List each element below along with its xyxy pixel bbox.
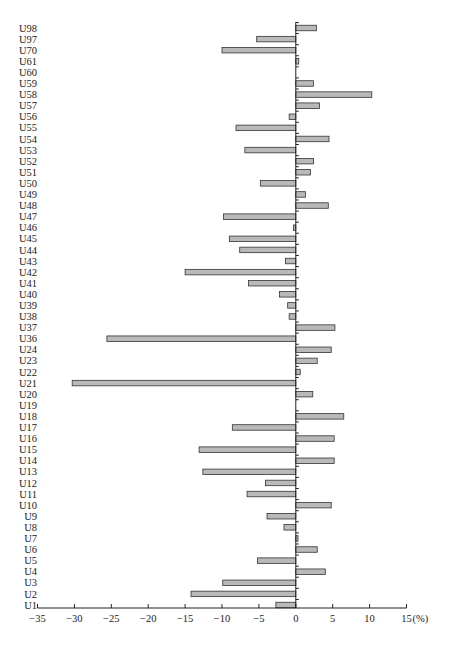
- bar-U15: [199, 447, 296, 453]
- category-label: U13: [19, 466, 37, 477]
- bar-U48: [296, 203, 328, 209]
- bar-U14: [296, 458, 334, 464]
- x-ticks: −35−30−25−20−15−10−5051015: [29, 604, 411, 624]
- category-label: U53: [19, 145, 37, 156]
- bar-U9: [267, 513, 296, 519]
- bar-U49: [296, 192, 306, 198]
- x-tick-label: 0: [293, 613, 298, 624]
- bar-U6: [296, 547, 317, 553]
- bar-U97: [257, 36, 296, 42]
- category-label: U54: [19, 134, 38, 145]
- category-label: U24: [19, 344, 38, 355]
- category-label: U36: [19, 333, 37, 344]
- bar-U17: [232, 425, 295, 431]
- category-label: U38: [19, 311, 37, 322]
- bar-U43: [285, 258, 295, 264]
- bar-U13: [203, 469, 296, 475]
- category-label: U1: [24, 600, 37, 611]
- bar-U51: [296, 170, 311, 176]
- bar-U37: [296, 325, 335, 331]
- x-tick-label: −25: [103, 613, 119, 624]
- category-label: U41: [19, 278, 37, 289]
- category-label: U46: [19, 222, 37, 233]
- x-tick-label: 10: [364, 613, 375, 624]
- category-label: U19: [19, 400, 37, 411]
- bar-U53: [245, 147, 296, 153]
- bar-U11: [247, 491, 296, 497]
- bar-U36: [107, 336, 296, 342]
- bar-U70: [222, 47, 296, 53]
- x-tick-label: −5: [253, 613, 264, 624]
- category-label: U48: [19, 200, 37, 211]
- bar-U2: [191, 591, 296, 597]
- category-label: U15: [19, 444, 37, 455]
- bar-U3: [223, 580, 296, 586]
- category-label: U52: [19, 156, 37, 167]
- bar-U23: [296, 358, 317, 364]
- category-label: U23: [19, 355, 37, 366]
- bar-U44: [240, 247, 296, 253]
- bar-U56: [289, 114, 296, 120]
- category-label: U11: [19, 489, 37, 500]
- category-label: U22: [19, 367, 37, 378]
- category-label: U3: [24, 577, 37, 588]
- category-label: U43: [19, 256, 37, 267]
- category-label: U44: [19, 245, 38, 256]
- bar-U39: [288, 303, 296, 309]
- bar-U20: [296, 391, 313, 397]
- category-label: U20: [19, 389, 37, 400]
- category-label: U7: [24, 533, 37, 544]
- bar-U41: [249, 280, 296, 286]
- category-label: U18: [19, 411, 37, 422]
- category-label: U17: [19, 422, 37, 433]
- bar-U42: [185, 269, 296, 275]
- category-label: U57: [19, 100, 37, 111]
- bar-U55: [236, 125, 296, 131]
- category-label: U10: [19, 500, 37, 511]
- bar-U50: [260, 181, 295, 187]
- bar-U38: [289, 314, 296, 320]
- category-label: U16: [19, 433, 37, 444]
- x-tick-label: 15: [401, 613, 412, 624]
- bar-U40: [280, 292, 296, 298]
- category-label: U42: [19, 267, 37, 278]
- bar-U59: [296, 81, 314, 87]
- bar-U1: [276, 602, 296, 608]
- bar-U18: [296, 414, 344, 420]
- category-label: U51: [19, 167, 37, 178]
- category-label: U40: [19, 289, 37, 300]
- bars-group: [72, 25, 372, 608]
- bar-U10: [296, 502, 331, 508]
- category-label: U98: [19, 23, 37, 34]
- bar-U5: [257, 558, 295, 564]
- bar-U98: [296, 25, 317, 31]
- bar-U22: [296, 369, 300, 375]
- bar-U4: [296, 569, 326, 575]
- category-label: U56: [19, 111, 37, 122]
- x-tick-label: 5: [330, 613, 335, 624]
- bar-U8: [284, 525, 296, 531]
- bar-U47: [223, 214, 295, 220]
- category-label: U70: [19, 45, 37, 56]
- x-tick-label: −20: [140, 613, 156, 624]
- category-label: U49: [19, 189, 37, 200]
- bar-chart: U98U97U70U61U60U59U58U57U56U55U54U53U52U…: [0, 0, 451, 645]
- bar-U57: [296, 103, 320, 109]
- bar-U16: [296, 436, 334, 442]
- category-label: U50: [19, 178, 37, 189]
- category-label: U60: [19, 67, 37, 78]
- category-label: U37: [19, 322, 37, 333]
- category-label: U61: [19, 56, 37, 67]
- category-label: U14: [19, 455, 38, 466]
- x-unit-label: (%): [413, 613, 429, 625]
- category-label: U58: [19, 89, 37, 100]
- x-tick-label: −10: [214, 613, 230, 624]
- category-label: U8: [24, 522, 37, 533]
- category-label: U59: [19, 78, 37, 89]
- bar-U24: [296, 347, 331, 353]
- category-label: U6: [24, 544, 37, 555]
- category-label: U39: [19, 300, 37, 311]
- category-label: U97: [19, 34, 37, 45]
- bar-U58: [296, 92, 372, 98]
- bar-U21: [72, 380, 296, 386]
